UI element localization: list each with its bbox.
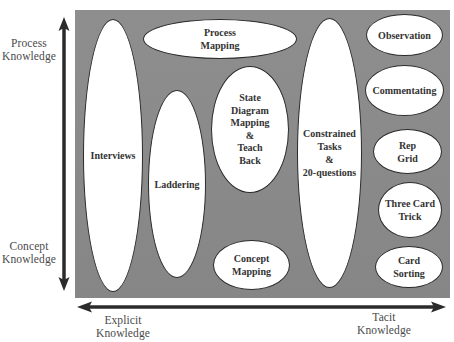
- vertical-axis-arrow: [59, 17, 70, 291]
- axis-label-tacit-knowledge: Tacit Knowledge: [348, 311, 420, 337]
- axis-arrows: [0, 0, 454, 342]
- axis-label-explicit-knowledge: Explicit Knowledge: [88, 314, 158, 340]
- axis-label-concept-knowledge: Concept Knowledge: [0, 240, 58, 266]
- axis-label-process-knowledge: Process Knowledge: [0, 37, 58, 63]
- diagram-canvas: Interviews Process Mapping Laddering Sta…: [0, 0, 454, 342]
